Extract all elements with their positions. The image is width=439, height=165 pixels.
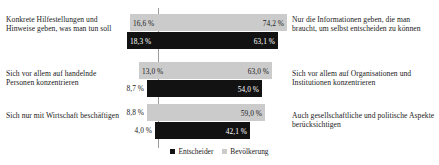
category-label-right-3: Auch gesellschaftliche und politische As… <box>292 111 436 130</box>
legend-label-bevoelkerung: Bevölkerung <box>230 147 268 156</box>
bar-value-left-entscheider-2: 8,7 % <box>108 84 144 93</box>
bar-value-left-bevoelkerung-1: 16,6 % <box>133 18 154 27</box>
bar-entscheider-2[interactable]: 54,0 % <box>147 80 262 97</box>
legend-label-entscheider: Entscheider <box>178 147 213 156</box>
category-label-right-1: Nur die Informationen geben, die man bra… <box>292 15 436 34</box>
bar-value-left-entscheider-3: 4,0 % <box>116 126 152 135</box>
chart-legend: Entscheider Bevölkerung <box>0 147 439 156</box>
category-label-left-1: Konkrete Hilfestellungen und Hinweise ge… <box>6 15 122 34</box>
bar-value-left-bevoelkerung-2: 13,0 % <box>142 66 163 75</box>
bar-value-right-entscheider-3: 42,1 % <box>226 126 247 135</box>
chart-group-2: Sich vor allem auf handelnde Personen ko… <box>0 62 439 102</box>
bar-value-right-entscheider-1: 63,1 % <box>254 36 275 45</box>
bar-value-right-bevoelkerung-3: 59,0 % <box>241 108 262 117</box>
category-label-left-3: Sich nur mit Wirtschaft beschäftigen <box>6 111 122 120</box>
bar-bevoelkerung-3[interactable]: 59,0 % <box>147 104 265 121</box>
chart-group-1: Konkrete Hilfestellungen und Hinweise ge… <box>0 14 439 58</box>
category-label-right-2: Sich vor allem auf Organisationen und In… <box>292 69 436 88</box>
bar-bevoelkerung-1[interactable]: 16,6 % 74,2 % <box>130 14 287 31</box>
bar-entscheider-1[interactable]: 18,3 % 63,1 % <box>127 32 278 49</box>
bar-value-right-entscheider-2: 54,0 % <box>238 84 259 93</box>
legend-swatch-icon-entscheider <box>170 149 175 154</box>
bar-value-right-bevoelkerung-1: 74,2 % <box>263 18 284 27</box>
bar-value-right-bevoelkerung-2: 63,0 % <box>248 66 269 75</box>
category-label-left-2: Sich vor allem auf handelnde Personen ko… <box>6 69 122 88</box>
bar-value-left-entscheider-1: 18,3 % <box>130 36 151 45</box>
bar-value-left-bevoelkerung-3: 8,8 % <box>108 108 144 117</box>
legend-item-entscheider[interactable]: Entscheider <box>170 147 213 156</box>
diverging-bar-chart: Konkrete Hilfestellungen und Hinweise ge… <box>0 0 439 165</box>
legend-swatch-icon-bevoelkerung <box>222 149 227 154</box>
bar-entscheider-3[interactable]: 42,1 % <box>155 122 250 139</box>
bar-bevoelkerung-2[interactable]: 13,0 % 63,0 % <box>139 62 272 79</box>
chart-group-3: Sich nur mit Wirtschaft beschäftigen 8,8… <box>0 104 439 144</box>
legend-item-bevoelkerung[interactable]: Bevölkerung <box>222 147 268 156</box>
